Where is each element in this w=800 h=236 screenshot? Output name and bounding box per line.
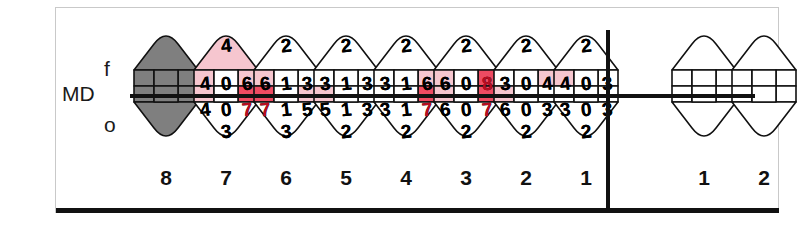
tooth-segment-facial-center[interactable] [214,70,238,86]
tooth-2[interactable] [728,26,800,146]
tooth-segment-facial-center[interactable] [514,70,538,86]
tooth-segment-facial-mesial[interactable] [314,70,334,86]
tooth-segment-facial-top[interactable] [434,36,498,70]
tooth-segment-facial-mesial[interactable] [374,70,394,86]
tooth-segment-facial-mesial[interactable] [434,70,454,86]
tooth-segment-facial-mesial[interactable] [672,70,692,86]
chart-bottom-rule [56,208,779,213]
tooth-segment-facial-top[interactable] [134,36,198,70]
tooth-segment-oral-bottom[interactable] [732,102,796,136]
tooth-segment-facial-mesial[interactable] [134,70,154,86]
tooth-segment-facial-top[interactable] [254,36,318,70]
tooth-segment-oral-bottom[interactable] [374,102,438,136]
tooth-segment-oral-bottom[interactable] [434,102,498,136]
tooth-segment-oral-bottom[interactable] [254,102,318,136]
tooth-segment-facial-center[interactable] [752,70,776,86]
axis-label-oral: o [104,114,116,135]
axis-label-facial: f [104,58,110,79]
tooth-segment-oral-bottom[interactable] [672,102,736,136]
tooth-segment-facial-center[interactable] [692,70,716,86]
tooth-segment-facial-distal[interactable] [776,70,796,86]
tooth-1[interactable]: 24033032 [550,26,622,146]
tooth-segment-facial-top[interactable] [194,36,258,70]
tooth-segment-oral-bottom[interactable] [134,102,198,136]
tooth-segment-facial-mesial[interactable] [194,70,214,86]
tooth-segment-facial-center[interactable] [394,70,418,86]
tooth-segment-facial-center[interactable] [154,70,178,86]
tooth-segment-oral-center[interactable] [752,86,776,102]
tooth-segment-facial-center[interactable] [454,70,478,86]
midline-reference-line [130,94,755,98]
tooth-label-1: 1 [550,166,622,190]
tooth-label-2: 2 [728,166,800,190]
axis-labels: f MD o [62,58,128,138]
axis-label-midline: MD [62,83,95,104]
tooth-segment-oral-bottom[interactable] [494,102,558,136]
tooth-segment-facial-center[interactable] [274,70,298,86]
tooth-segment-facial-mesial[interactable] [494,70,514,86]
tooth-segment-facial-mesial[interactable] [732,70,752,86]
tooth-segment-oral-bottom[interactable] [194,102,258,136]
tooth-segment-facial-mesial[interactable] [554,70,574,86]
tooth-segment-facial-top[interactable] [732,36,796,70]
tooth-segment-facial-center[interactable] [334,70,358,86]
tooth-segment-facial-top[interactable] [672,36,736,70]
tooth-segment-facial-top[interactable] [494,36,558,70]
tooth-segment-facial-center[interactable] [574,70,598,86]
tooth-segment-facial-top[interactable] [374,36,438,70]
tooth-segment-oral-bottom[interactable] [314,102,378,136]
tooth-segment-oral-distal[interactable] [776,86,796,102]
tooth-segment-facial-top[interactable] [314,36,378,70]
tooth-segment-facial-mesial[interactable] [254,70,274,86]
